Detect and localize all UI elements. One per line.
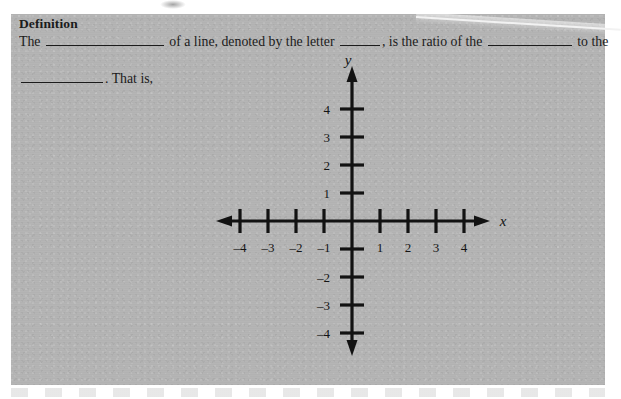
y-axis-arrow-down [347, 340, 358, 356]
y-tick-label-neg4: –4 [316, 326, 331, 341]
y-tick-label-pos1: 1 [324, 186, 331, 201]
x-tick-label-neg1: –1 [317, 240, 331, 255]
scan-smudge-artifact [160, 0, 186, 9]
y-tick-label-neg3: –3 [316, 298, 330, 313]
y-axis-label: y [343, 58, 352, 68]
x-axis-label: x [499, 213, 507, 229]
definition-line1-segment-4: to the [577, 34, 608, 49]
y-axis-arrow-up [347, 66, 358, 82]
x-tick-label-pos3: 3 [433, 240, 440, 255]
x-tick-label-neg2: –2 [289, 240, 303, 255]
x-tick-label-neg4: –4 [233, 240, 248, 255]
definition-panel: Definition The of a line, denoted by the… [11, 14, 605, 385]
fill-in-blank-slope[interactable] [46, 34, 164, 46]
y-tick-label-pos4: 4 [324, 102, 331, 117]
definition-line1-segment-2: of a line, denoted by the letter [169, 34, 334, 49]
x-tick-label-pos1: 1 [377, 240, 384, 255]
x-tick-label-pos2: 2 [405, 240, 412, 255]
y-tick-label-pos2: 2 [324, 158, 331, 173]
definition-line2-segment-1: . That is, [105, 71, 153, 86]
definition-line1-segment-1: The [19, 34, 40, 49]
definition-heading: Definition [19, 16, 594, 31]
y-tick-label-neg2: –2 [316, 270, 330, 285]
scan-bottom-ghost-artifact [11, 388, 605, 397]
x-axis-arrow-right [474, 216, 490, 227]
fill-in-blank-letter[interactable] [340, 34, 380, 46]
coordinate-plane-svg: y x –4 –3 –2 –1 1 2 3 4 4 3 2 [206, 58, 516, 363]
definition-line1-segment-3: , is the ratio of the [382, 34, 482, 49]
y-tick-label-pos3: 3 [324, 130, 331, 145]
definition-line-1: The of a line, denoted by the letter , i… [19, 32, 594, 52]
x-tick-label-pos4: 4 [461, 240, 468, 255]
coordinate-plane: y x –4 –3 –2 –1 1 2 3 4 4 3 2 [206, 58, 516, 363]
fill-in-blank-rise[interactable] [488, 34, 572, 46]
fill-in-blank-run[interactable] [21, 71, 103, 83]
x-axis-arrow-left [216, 216, 232, 227]
x-tick-label-neg3: –3 [261, 240, 275, 255]
